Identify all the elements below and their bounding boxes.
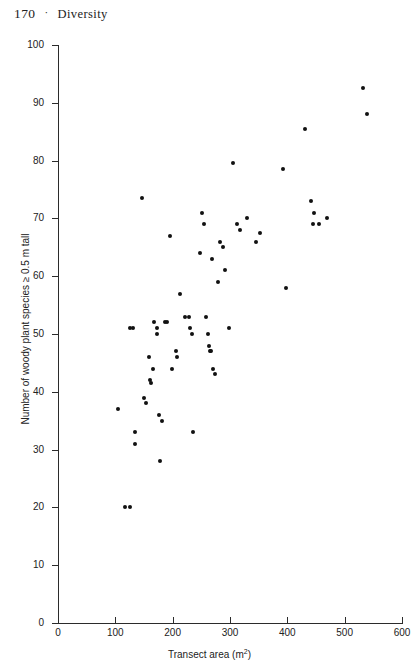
data-point xyxy=(178,292,182,296)
data-point xyxy=(147,355,151,359)
data-point xyxy=(206,332,210,336)
data-point xyxy=(317,222,321,226)
data-point xyxy=(157,413,161,417)
data-point xyxy=(155,326,159,330)
data-point xyxy=(165,320,169,324)
data-point xyxy=(311,222,315,226)
data-point xyxy=(207,344,211,348)
y-axis-tick-label: 100 xyxy=(10,40,44,50)
data-point xyxy=(218,240,222,244)
data-point xyxy=(175,355,179,359)
y-axis-label: Number of woody plant species ≥ 0.5 m ta… xyxy=(20,233,31,424)
data-point xyxy=(221,245,225,249)
data-point xyxy=(174,349,178,353)
y-axis-tick-label: 80 xyxy=(10,156,44,166)
data-point xyxy=(142,396,146,400)
data-point xyxy=(281,167,285,171)
data-point xyxy=(116,407,120,411)
data-point xyxy=(123,505,127,509)
data-point xyxy=(213,372,217,376)
data-point xyxy=(170,367,174,371)
data-point xyxy=(325,216,329,220)
y-axis-tick xyxy=(52,623,58,624)
y-axis-tick-label: 90 xyxy=(10,98,44,108)
data-point xyxy=(258,231,262,235)
data-point xyxy=(168,234,172,238)
y-axis-tick-label: 0 xyxy=(10,618,44,628)
data-point xyxy=(204,315,208,319)
data-point xyxy=(140,196,144,200)
x-axis-tick-label: 600 xyxy=(382,628,419,638)
x-axis-line xyxy=(58,623,403,624)
data-point xyxy=(151,367,155,371)
data-point xyxy=(254,240,258,244)
y-axis-tick-label: 10 xyxy=(10,560,44,570)
data-point xyxy=(128,505,132,509)
x-axis-label: Transect area (m2) xyxy=(0,648,419,660)
data-point xyxy=(187,315,191,319)
data-point xyxy=(361,86,365,90)
data-point xyxy=(133,430,137,434)
x-axis-tick-label: 400 xyxy=(267,628,307,638)
x-axis-label-superscript: 2 xyxy=(244,648,248,655)
data-point xyxy=(152,320,156,324)
data-point xyxy=(245,216,249,220)
data-point xyxy=(235,222,239,226)
x-axis-tick-label: 500 xyxy=(325,628,365,638)
scatter-plot-figure: 0102030405060708090100 01002003004005006… xyxy=(0,0,419,671)
data-point xyxy=(227,326,231,330)
plot-data-area xyxy=(58,45,402,623)
data-point xyxy=(198,251,202,255)
data-point xyxy=(284,286,288,290)
x-axis-tick-label: 0 xyxy=(38,628,78,638)
data-point xyxy=(309,199,313,203)
data-point xyxy=(190,332,194,336)
data-point xyxy=(131,326,135,330)
data-point xyxy=(133,442,137,446)
data-point xyxy=(365,112,369,116)
data-point xyxy=(191,430,195,434)
data-point xyxy=(211,367,215,371)
y-axis-tick-label: 20 xyxy=(10,502,44,512)
x-axis-tick xyxy=(402,617,403,623)
data-point xyxy=(202,222,206,226)
data-point xyxy=(188,326,192,330)
data-point xyxy=(200,211,204,215)
x-axis-tick-label: 200 xyxy=(153,628,193,638)
y-axis-label-container: Number of woody plant species ≥ 0.5 m ta… xyxy=(15,199,33,459)
x-axis-tick-label: 100 xyxy=(95,628,135,638)
data-point xyxy=(209,349,213,353)
data-point xyxy=(223,268,227,272)
data-point xyxy=(144,401,148,405)
data-point xyxy=(231,161,235,165)
data-point xyxy=(312,211,316,215)
data-point xyxy=(158,459,162,463)
data-point xyxy=(210,257,214,261)
data-point xyxy=(303,127,307,131)
x-axis-tick-label: 300 xyxy=(210,628,250,638)
data-point xyxy=(160,419,164,423)
data-point xyxy=(155,332,159,336)
data-point xyxy=(238,228,242,232)
data-point xyxy=(216,280,220,284)
data-point xyxy=(149,381,153,385)
